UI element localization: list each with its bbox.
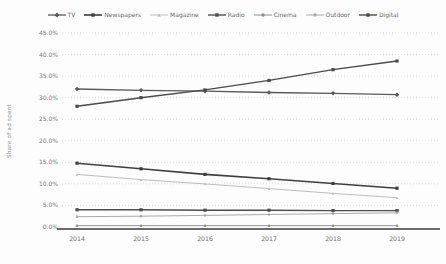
square-marker-icon	[395, 187, 398, 190]
square-marker-icon	[203, 173, 206, 176]
y-axis-title: Share of ad spent	[6, 96, 12, 166]
x-tick-label: 2016	[197, 235, 213, 242]
y-tick-label: 5.0%	[43, 201, 59, 208]
circle-marker-icon	[332, 212, 335, 215]
circle-marker-icon	[204, 214, 207, 217]
circle-marker-icon	[204, 224, 207, 227]
circle-marker-icon	[76, 215, 79, 218]
y-tick-label: 45.0%	[39, 29, 58, 36]
diamond-marker-icon	[331, 91, 336, 96]
x-tick-label: 2014	[69, 235, 85, 242]
square-marker-icon	[331, 68, 334, 71]
square-marker-icon	[331, 209, 334, 212]
y-tick-label: 20.0%	[39, 137, 58, 144]
series-line-newspapers	[77, 163, 397, 188]
circle-marker-icon	[268, 213, 271, 216]
square-marker-icon	[139, 96, 142, 99]
circle-marker-icon	[396, 224, 399, 227]
square-marker-icon	[267, 177, 270, 180]
square-marker-icon	[75, 208, 78, 211]
square-marker-icon	[331, 182, 334, 185]
y-tick-label: 0.0%	[43, 223, 59, 230]
square-marker-icon	[203, 88, 206, 91]
series-line-digital	[77, 61, 397, 106]
square-marker-icon	[267, 79, 270, 82]
square-marker-icon	[75, 105, 78, 108]
circle-marker-icon	[140, 215, 143, 218]
y-tick-label: 15.0%	[39, 158, 58, 165]
diamond-marker-icon	[267, 90, 272, 95]
y-tick-label: 25.0%	[39, 115, 58, 122]
y-tick-label: 30.0%	[39, 94, 58, 101]
y-tick-label: 35.0%	[39, 72, 58, 79]
square-marker-icon	[267, 209, 270, 212]
circle-marker-icon	[396, 211, 399, 214]
x-tick-label: 2019	[389, 235, 405, 242]
circle-marker-icon	[140, 224, 143, 227]
square-marker-icon	[75, 162, 78, 165]
chart-container: TVNewspapersMagazineRadioCinemaOutdoorDi…	[0, 0, 446, 264]
series-line-tv	[77, 89, 397, 95]
diamond-marker-icon	[139, 88, 144, 93]
square-marker-icon	[203, 209, 206, 212]
circle-marker-icon	[332, 224, 335, 227]
square-marker-icon	[395, 59, 398, 62]
square-marker-icon	[139, 167, 142, 170]
series-line-outdoor	[77, 213, 397, 217]
x-tick-label: 2018	[325, 235, 341, 242]
plot-area: 0.0%5.0%10.0%15.0%20.0%25.0%30.0%35.0%40…	[0, 0, 446, 264]
series-line-magazine	[77, 174, 397, 197]
square-marker-icon	[139, 208, 142, 211]
y-tick-label: 40.0%	[39, 51, 58, 58]
series-line-radio	[77, 210, 397, 211]
circle-marker-icon	[76, 224, 79, 227]
x-tick-label: 2015	[133, 235, 149, 242]
circle-marker-icon	[268, 224, 271, 227]
diamond-marker-icon	[75, 87, 80, 92]
x-tick-label: 2017	[261, 235, 277, 242]
diamond-marker-icon	[395, 92, 400, 97]
y-tick-label: 10.0%	[39, 180, 58, 187]
